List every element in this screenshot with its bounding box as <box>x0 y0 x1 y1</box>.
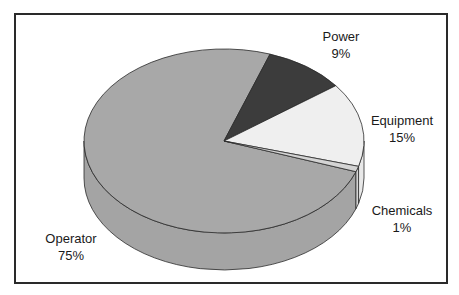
label-power-name: Power <box>313 28 369 45</box>
pie-top-face <box>84 49 364 233</box>
label-operator: Operator 75% <box>40 230 102 264</box>
label-power: Power 9% <box>313 28 369 62</box>
label-operator-name: Operator <box>40 230 102 247</box>
label-chemicals-name: Chemicals <box>366 202 438 219</box>
label-power-pct: 9% <box>313 45 369 62</box>
label-chemicals: Chemicals 1% <box>366 202 438 236</box>
label-operator-pct: 75% <box>40 247 102 264</box>
label-chemicals-pct: 1% <box>366 219 438 236</box>
label-equipment-pct: 15% <box>366 129 438 146</box>
label-equipment: Equipment 15% <box>366 112 438 146</box>
label-equipment-name: Equipment <box>366 112 438 129</box>
